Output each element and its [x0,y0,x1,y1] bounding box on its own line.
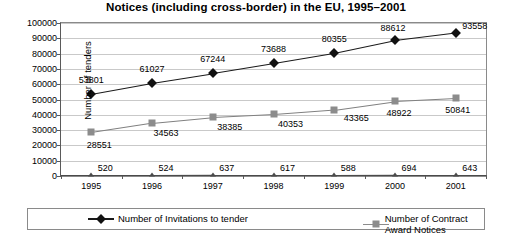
data-point-label: 50841 [445,105,470,115]
data-point-marker [149,120,156,127]
data-point-label: 88612 [380,23,405,33]
y-axis-tick-label: 30000 [0,125,57,135]
series-line-segment [274,53,335,64]
y-axis-tick-mark [57,115,61,116]
data-point-marker [329,48,339,58]
data-point-label: 43365 [344,113,369,123]
series-line-segment [91,123,152,133]
gridline [61,84,486,85]
x-axis-category-label: 1999 [324,181,344,191]
x-axis-category-label: 1997 [203,181,223,191]
gridline [61,145,486,146]
y-axis-tick-label: 50000 [0,95,57,105]
data-point-label: 694 [401,163,416,173]
data-point-label: 28551 [87,140,112,150]
plot-area: 0100002000030000400005000060000700008000… [60,22,487,177]
x-axis-category-label: 2001 [446,181,466,191]
data-point-marker [331,106,338,113]
data-point-label: 524 [159,163,174,173]
data-point-marker [147,78,157,88]
legend-label: Number of Invitations to tender [118,213,248,224]
y-axis-tick-label: 60000 [0,79,57,89]
y-axis-tick-mark [57,145,61,146]
x-axis-category-label: 1996 [142,181,162,191]
data-point-label: 40353 [278,119,303,129]
series-line-segment [152,117,213,124]
data-point-label: 637 [219,163,234,173]
y-axis-tick-label: 20000 [0,140,57,150]
x-axis-line [61,175,486,176]
y-axis-tick-mark [57,23,61,24]
legend-marker-icon [363,220,381,229]
data-point-marker [209,114,216,121]
x-axis-category-label: 1998 [263,181,283,191]
y-axis-tick-label: 10000 [0,156,57,166]
y-axis-tick-mark [57,161,61,162]
series-line-segment [395,33,456,42]
gridline [61,130,486,131]
data-point-marker [390,35,400,45]
x-axis-category-label: 2000 [385,181,405,191]
data-point-label: 34563 [154,128,179,138]
gridline [61,69,486,70]
y-axis-tick-label: 90000 [0,33,57,43]
data-point-marker [270,111,277,118]
legend-item[interactable]: Number of Invitations to tender [88,213,248,224]
gridline [61,23,486,24]
data-point-marker [451,28,461,38]
y-axis-tick-label: 100000 [0,18,57,28]
chart-legend: Number of Invitations to tenderNumber of… [27,208,485,230]
data-point-label: 80355 [322,34,347,44]
data-point-label: 67244 [200,54,225,64]
y-axis-tick-mark [57,84,61,85]
data-point-marker [269,58,279,68]
legend-item[interactable]: Number of Contract Award Notices [363,213,484,234]
y-axis-tick-label: 40000 [0,110,57,120]
y-axis-tick-label: 70000 [0,64,57,74]
y-axis-tick-mark [57,130,61,131]
data-point-label: 93558 [462,21,487,31]
data-point-marker [452,95,459,102]
legend-marker-icon [88,214,114,223]
data-point-label: 48922 [386,108,411,118]
legend-label: Number of Contract Award Notices [385,213,484,234]
data-point-label: 617 [280,163,295,173]
chart-container: Notices (including cross-border) in the … [0,0,512,234]
series-line-segment [152,73,213,83]
y-axis-tick-mark [57,38,61,39]
y-axis-tick-label: 0 [0,171,57,181]
y-axis-label: Number of tenders [82,21,93,141]
data-point-label: 61027 [140,64,165,74]
y-axis-tick-mark [57,69,61,70]
data-point-label: 38385 [217,122,242,132]
y-axis-tick-mark [57,54,61,55]
x-axis-tick-mark [486,175,487,179]
y-axis-tick-mark [57,100,61,101]
data-point-label: 643 [462,163,477,173]
data-point-label: 588 [341,163,356,173]
data-point-label: 73688 [261,44,286,54]
chart-title: Notices (including cross-border) in the … [0,1,512,13]
gridline [61,161,486,162]
data-point-label: 520 [98,163,113,173]
x-axis-category-label: 1995 [81,181,101,191]
gridline [61,38,486,39]
data-point-marker [391,98,398,105]
y-axis-tick-label: 80000 [0,49,57,59]
